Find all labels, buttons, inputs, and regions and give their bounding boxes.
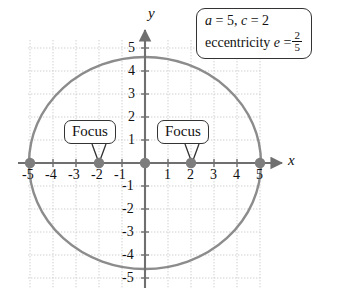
x-tick-label--3: -3 [68, 168, 80, 182]
legend-c-value: = 2 [251, 13, 269, 28]
y-tick-label--5: -5 [122, 271, 134, 285]
y-tick-label-5: 5 [128, 41, 135, 55]
fraction-denominator: 5 [292, 42, 302, 54]
x-tick-label--5: -5 [22, 168, 34, 182]
point-center [140, 158, 150, 168]
y-tick-label-3: 3 [128, 87, 135, 101]
axis-lines [18, 30, 282, 288]
y-axis-label: y [148, 5, 155, 22]
legend-e-symbol: e [274, 34, 280, 49]
y-tick-label--1: -1 [122, 179, 134, 193]
x-tick-label--4: -4 [45, 168, 57, 182]
y-tick-label-2: 2 [128, 110, 135, 124]
parameters-legend: a = 5, c = 2 eccentricity e =25 [196, 8, 312, 59]
x-tick-label-1: 1 [164, 168, 171, 182]
eccentricity-fraction: 25 [292, 30, 302, 54]
legend-a-symbol: a [205, 13, 212, 28]
legend-a-value: = 5, [216, 13, 238, 28]
focus-callout-right: Focus [157, 120, 209, 144]
legend-eccentricity-word: eccentricity [205, 34, 270, 49]
y-tick-label-4: 4 [128, 64, 135, 78]
x-tick-label-3: 3 [210, 168, 217, 182]
x-tick-label-2: 2 [187, 168, 194, 182]
legend-equals-sign: = [284, 34, 292, 49]
x-tick-label-5: 5 [256, 168, 263, 182]
legend-line-eccentricity: eccentricity e =25 [205, 30, 303, 54]
legend-c-symbol: c [241, 13, 247, 28]
x-tick-label-4: 4 [233, 168, 240, 182]
x-tick-label--2: -2 [91, 168, 103, 182]
y-tick-label--3: -3 [122, 225, 134, 239]
y-tick-label--4: -4 [122, 248, 134, 262]
x-axis-label: x [288, 152, 295, 169]
focus-callout-left: Focus [64, 120, 116, 144]
y-tick-label-1: 1 [128, 133, 135, 147]
legend-line-a-c: a = 5, c = 2 [205, 12, 303, 30]
ellipse-figure: -5 -4 -3 -2 -1 1 2 3 4 5 5 4 3 2 1 -1 -2… [0, 0, 343, 288]
y-tick-label--2: -2 [122, 202, 134, 216]
